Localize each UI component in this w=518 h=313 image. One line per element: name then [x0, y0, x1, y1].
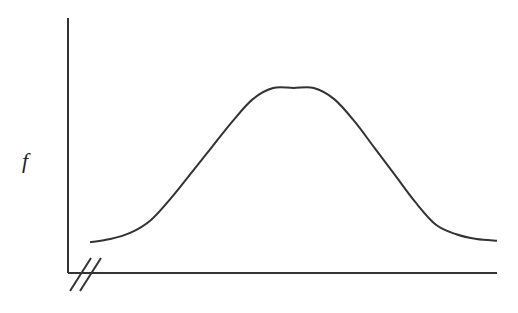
axis-break-mark-2	[80, 258, 101, 291]
y-axis-label: f	[22, 148, 28, 174]
distribution-curve	[90, 87, 497, 242]
distribution-chart	[0, 0, 518, 313]
axis-break-mark-1	[70, 258, 91, 291]
